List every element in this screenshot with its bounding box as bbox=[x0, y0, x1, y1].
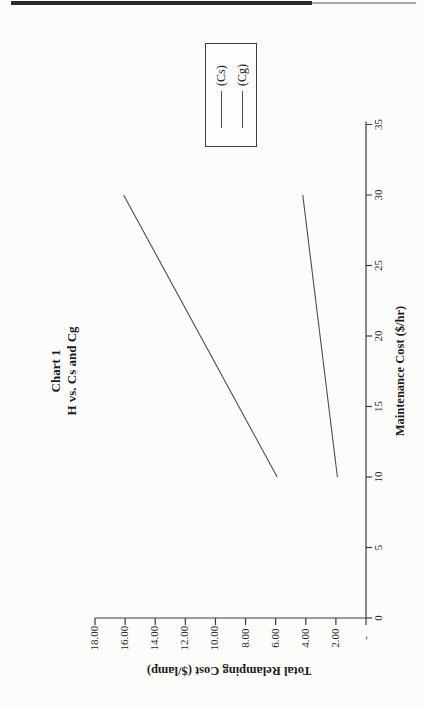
x-tick-label: 30 bbox=[372, 181, 385, 209]
legend-box: (Cs) (Cg) bbox=[205, 43, 257, 147]
scanned-document-page: Chart 1 H vs. Cs and Cg 0510152025303518… bbox=[0, 0, 424, 707]
series-line-cg bbox=[303, 195, 338, 477]
y-tick-label: 16.00 bbox=[118, 622, 131, 654]
y-tick-label: 2.00 bbox=[329, 622, 342, 654]
rotated-chart-region: Chart 1 H vs. Cs and Cg 0510152025303518… bbox=[15, 12, 415, 702]
chart-canvas: Chart 1 H vs. Cs and Cg 0510152025303518… bbox=[15, 12, 415, 702]
y-tick-label: 18.00 bbox=[88, 622, 101, 654]
legend-line-sample-cs bbox=[221, 91, 222, 128]
legend-label-cs: (Cs) bbox=[213, 65, 229, 86]
x-tick-label: 10 bbox=[372, 463, 385, 491]
y-tick-label: 4.00 bbox=[299, 622, 312, 654]
legend-row-cg: (Cg) bbox=[232, 44, 253, 146]
page-top-rule-dark bbox=[11, 1, 312, 5]
x-axis-title: Maintenance Cost ($/hr) bbox=[393, 124, 408, 618]
legend-line-sample-cg bbox=[242, 91, 243, 128]
x-tick-label: 5 bbox=[372, 534, 385, 562]
legend-row-cs: (Cs) bbox=[211, 44, 232, 146]
y-tick-label: 10.00 bbox=[208, 622, 221, 654]
y-tick-label: 14.00 bbox=[148, 622, 161, 654]
page-top-rule-light bbox=[312, 2, 416, 4]
y-tick-label: 6.00 bbox=[269, 622, 282, 654]
x-tick-label: 25 bbox=[372, 252, 385, 280]
y-axis-title: Total Relamping Cost ($/lamp) bbox=[79, 662, 379, 678]
legend-label-cg: (Cg) bbox=[234, 64, 250, 86]
x-tick-label: 20 bbox=[372, 322, 385, 350]
y-tick-label: 12.00 bbox=[178, 622, 191, 654]
series-line-cs bbox=[124, 195, 278, 477]
x-tick-label: 0 bbox=[372, 604, 385, 632]
y-tick-label: 8.00 bbox=[239, 622, 252, 654]
y-tick-label: - bbox=[359, 622, 372, 654]
x-tick-label: 35 bbox=[372, 111, 385, 139]
x-tick-label: 15 bbox=[372, 393, 385, 421]
